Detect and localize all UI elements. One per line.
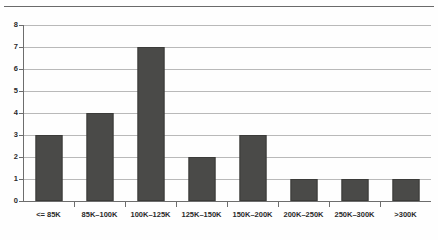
x-tick-mark xyxy=(176,202,177,207)
bar-slot xyxy=(227,25,278,201)
x-tick-label: 200K–250K xyxy=(278,211,329,219)
bar-slot xyxy=(278,25,329,201)
y-tick-mark-2 xyxy=(19,157,24,158)
bar-slot xyxy=(74,25,125,201)
y-axis-tick-labels: 012345678 xyxy=(0,0,18,240)
x-tick-label: 85K–100K xyxy=(74,211,125,219)
x-tick-mark xyxy=(125,202,126,207)
page-top-rule xyxy=(4,6,434,7)
y-tick-label-0: 0 xyxy=(4,197,18,205)
bar xyxy=(188,157,215,201)
x-tick-label: >300K xyxy=(380,211,431,219)
x-tick-mark xyxy=(74,202,75,207)
y-tick-label-4: 4 xyxy=(4,109,18,117)
x-tick-mark xyxy=(329,202,330,207)
y-tick-mark-3 xyxy=(19,135,24,136)
y-tick-label-5: 5 xyxy=(4,87,18,95)
bar xyxy=(86,113,113,201)
x-tick-label: 100K–125K xyxy=(125,211,176,219)
y-tick-label-6: 6 xyxy=(4,65,18,73)
x-tick-label: <= 85K xyxy=(23,211,74,219)
bar-slot xyxy=(176,25,227,201)
bar xyxy=(392,179,419,201)
x-tick-label: 150K–200K xyxy=(227,211,278,219)
x-tick-label: 125K–150K xyxy=(176,211,227,219)
y-tick-mark-4 xyxy=(19,113,24,114)
bar-series xyxy=(23,25,431,201)
y-tick-label-3: 3 xyxy=(4,131,18,139)
y-tick-mark-7 xyxy=(19,47,24,48)
y-tick-label-8: 8 xyxy=(4,21,18,29)
bar xyxy=(137,47,164,201)
bar-slot xyxy=(125,25,176,201)
bar xyxy=(341,179,368,201)
bar xyxy=(290,179,317,201)
y-tick-label-2: 2 xyxy=(4,153,18,161)
x-tick-mark xyxy=(380,202,381,207)
bar-slot xyxy=(380,25,431,201)
chart-page: 012345678 <= 85K85K–100K100K–125K125K–15… xyxy=(0,0,438,240)
x-tick-label: 250K–300K xyxy=(329,211,380,219)
bar xyxy=(35,135,62,201)
x-tick-mark xyxy=(227,202,228,207)
bar xyxy=(239,135,266,201)
y-tick-label-7: 7 xyxy=(4,43,18,51)
y-tick-mark-8 xyxy=(19,25,24,26)
x-tick-mark xyxy=(278,202,279,207)
y-tick-mark-5 xyxy=(19,91,24,92)
y-tick-mark-1 xyxy=(19,179,24,180)
y-tick-mark-0 xyxy=(19,201,24,202)
bar-slot xyxy=(329,25,380,201)
y-tick-label-1: 1 xyxy=(4,175,18,183)
y-tick-mark-6 xyxy=(19,69,24,70)
bar-slot xyxy=(23,25,74,201)
